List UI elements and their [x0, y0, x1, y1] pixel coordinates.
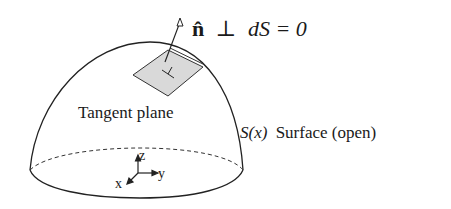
- normal-arrowhead-icon: [177, 18, 183, 26]
- hemisphere-diagram: n̂ ⊥ dS = 0 Tangent plane S(x) Surface (…: [0, 0, 451, 209]
- surface-label: S(x) Surface (open): [240, 123, 376, 142]
- tangent-plane-label: Tangent plane: [78, 103, 174, 122]
- equation-label: n̂ ⊥ dS = 0: [192, 16, 307, 41]
- axis-label-y: y: [158, 166, 165, 181]
- axis-label-x: x: [115, 176, 122, 191]
- axis-label-z: z: [139, 148, 145, 163]
